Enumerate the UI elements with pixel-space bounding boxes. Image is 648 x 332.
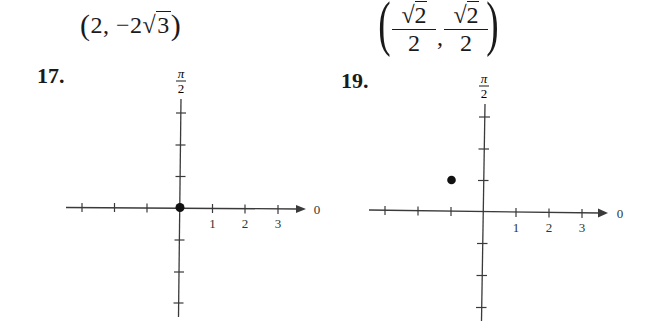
svg-text:2: 2 [242,216,249,231]
angle-label-pi-over-2: π 2 [176,66,186,96]
plotted-point [447,176,456,185]
problem-number-19: 19. [341,68,369,94]
zero-angle-label: 0 [617,206,624,221]
svg-text:1: 1 [513,220,520,235]
arrow-icon [296,205,306,213]
vertical-axis [482,104,486,321]
svg-text:3: 3 [275,216,282,231]
arrow-icon [598,209,608,218]
svg-text:2: 2 [178,81,185,96]
polar-axis [369,210,600,213]
tick-labels: 1 2 3 [513,220,586,235]
polar-plot-17: π 2 1 2 3 0 π 2 [0,0,648,332]
svg-text:2: 2 [481,86,488,101]
tick-labels: 1 2 3 [209,216,281,231]
svg-text:π: π [178,66,185,81]
svg-text:3: 3 [579,220,586,235]
svg-text:π: π [481,71,488,86]
svg-text:1: 1 [209,216,216,231]
zero-angle-label: 0 [314,202,321,217]
plotted-point [176,203,185,212]
svg-text:2: 2 [546,220,553,235]
polar-plot-19: π 2 1 2 3 0 [369,71,623,321]
angle-label-pi-over-2: π 2 [479,71,489,101]
